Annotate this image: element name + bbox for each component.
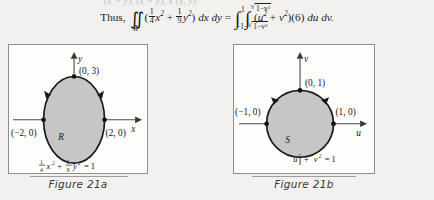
equation-lead-word: Thus, [100,11,125,23]
frac2-num: 1 [67,159,70,165]
eq-exp-y: 2 [78,160,81,166]
eq-var-y: y [72,161,77,171]
label-point-right: (1, 0) [336,107,356,118]
label-point-top: (0, 3) [79,66,99,77]
outer-lower-limit: −1 [236,22,244,31]
point-marker-left [41,117,46,122]
equals-sign: = [225,11,231,23]
iint-region-subscript: R [133,24,138,33]
fraction-one-ninth: 1 9 [176,8,182,25]
y-axis-label: y [77,54,83,64]
fraction-numerator: 1 [149,8,155,16]
jacobian-factor: (6) [291,11,304,23]
eq-equals-one: = 1 [325,154,336,164]
eq-plus: + [304,154,309,164]
point-marker-right [102,117,107,122]
cropped-text-line: (x + y), (x + y), x (x, y) [104,0,354,7]
region-label-r: R [57,132,64,142]
region-r-ellipse [44,77,105,164]
radicand: 1−v2 [255,3,271,13]
inner-integral: ∫ 1−v2 −1−v2 [245,12,250,25]
caption-rule-b [252,176,356,177]
label-point-left: (−2, 0) [11,128,37,139]
fraction-denominator: 9 [176,16,182,25]
label-point-right: (2, 0) [106,128,126,139]
radicand-exponent: 2 [268,5,270,10]
fraction-one-quarter: 1 4 [149,8,155,25]
outer-integral: ∫ 1 −1 [235,12,240,25]
exponent-two: 2 [160,9,164,18]
point-marker-top [298,88,303,93]
frac1-den: 4 [40,167,43,173]
sqrt-lower: 1−v2 [248,21,268,31]
point-marker-left [264,121,269,126]
point-marker-right [331,121,336,126]
eq-equals-one: = 1 [84,161,95,171]
eq-exp-u: 2 [298,153,301,159]
curve-equation-a: 1 4 x 2 + 1 9 y 2 = 1 [39,159,95,173]
differential-dudv: du dv. [307,11,334,23]
eq-exp-x: 2 [52,160,55,166]
u-axis-label: u [356,128,361,138]
figure-b-canvas: u v (0, 1) (−1, 0) (1, 0) S u 2 + v 2 = … [234,45,374,173]
figure-a-caption: Figure 21a [8,178,148,190]
x-axis-label: x [130,124,136,134]
iint-glyph: ∬ [130,15,141,24]
eq-plus: + [57,161,62,171]
eq-var-x: x [45,161,50,171]
v-axis-label: v [304,54,309,64]
frac1-num: 1 [40,159,43,165]
plus-sign: + [167,11,173,23]
figure-21a: x y (0, 3) (−2, 0) (2, 0) R 1 4 x 2 + 1 … [8,44,148,174]
integrand-close-paren: ) [192,11,196,23]
point-marker-top [72,74,77,79]
frac2-den: 9 [67,167,70,173]
radicand-exponent: 2 [265,23,267,28]
inner-lower-limit: −1−v2 [244,21,268,31]
inner-upper-limit: 1−v2 [251,3,271,13]
radicand: 1−v2 [252,21,268,31]
double-integral-symbol: ∬ R [130,13,141,25]
radicand-text: 1−v [256,4,268,13]
figure-b-caption: Figure 21b [233,178,375,190]
integrand-open-paren: ( [145,11,149,23]
label-point-top: (0, 1) [305,78,325,89]
sqrt-upper: 1−v2 [251,3,271,13]
display-equation: Thus, ∬ R ( 1 4 x2 + 1 9 y2) dx dy = ∫ 1… [0,8,434,25]
figure-a-canvas: x y (0, 3) (−2, 0) (2, 0) R 1 4 x 2 + 1 … [9,45,147,173]
fraction-denominator: 4 [149,16,155,25]
fraction-numerator: 1 [176,8,182,16]
eq-exp-v: 2 [319,153,322,159]
differential-dxdy: dx dy [198,11,222,23]
eq-var-v: v [314,154,318,164]
figure-21b: u v (0, 1) (−1, 0) (1, 0) S u 2 + v 2 = … [233,44,375,174]
label-point-left: (−1, 0) [235,107,261,118]
region-label-s: S [285,135,290,145]
cropped-text: (x + y), (x + y), x (x, y) [104,0,196,6]
eq-var-u: u [293,154,297,164]
caption-rule-a [30,176,128,177]
radicand-text: 1−v [253,22,265,31]
